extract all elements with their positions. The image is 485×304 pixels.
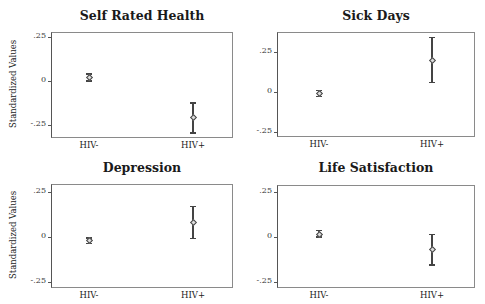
y-tick-mark [48,125,51,126]
y-tick-label: 0 [250,86,272,95]
panel-title: Life Satisfaction [277,160,475,175]
plot-frame [277,185,475,288]
y-tick-label: .25 [250,186,272,195]
y-axis-label: Standardized Values [8,29,18,139]
ci-cap-top [429,234,435,235]
panel-title: Self Rated Health [51,8,233,23]
y-tick-label: .25 [24,31,46,40]
y-tick-mark [274,282,277,283]
y-tick-label: -.25 [24,276,46,285]
y-tick-label: 0 [250,231,272,240]
y-tick-label: .25 [250,46,272,55]
x-category-label: HIV- [299,290,339,300]
x-category-label: HIV+ [173,140,213,150]
ci-cap-top [190,206,196,207]
plot-frame [277,32,475,137]
x-category-label: HIV+ [412,139,452,149]
ci-cap-bottom [190,132,196,133]
y-tick-mark [274,92,277,93]
y-tick-mark [274,192,277,193]
plot-frame [51,184,233,288]
y-axis-label: Standardized Values [8,180,18,290]
ci-cap-top [429,37,435,38]
y-tick-mark [48,37,51,38]
x-category-label: HIV- [69,290,109,300]
y-tick-mark [48,192,51,193]
x-category-label: HIV- [299,139,339,149]
ci-cap-top [190,102,196,103]
x-category-label: HIV+ [412,290,452,300]
x-category-label: HIV- [69,140,109,150]
panel-title: Sick Days [277,8,475,23]
y-tick-label: -.25 [250,276,272,285]
y-tick-mark [48,237,51,238]
y-tick-mark [274,237,277,238]
y-tick-label: -.25 [24,119,46,128]
y-tick-mark [48,282,51,283]
ci-cap-bottom [190,238,196,239]
y-tick-label: -.25 [250,126,272,135]
ci-cap-bottom [429,264,435,265]
y-tick-mark [274,52,277,53]
panel-title: Depression [51,160,233,175]
y-tick-label: 0 [24,75,46,84]
y-tick-mark [274,132,277,133]
x-category-label: HIV+ [173,290,213,300]
y-tick-mark [48,81,51,82]
y-tick-label: 0 [24,231,46,240]
y-tick-label: .25 [24,186,46,195]
plot-frame [51,32,233,138]
ci-cap-bottom [429,82,435,83]
